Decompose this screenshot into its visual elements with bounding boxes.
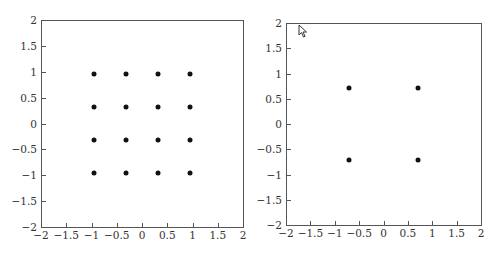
x-tick bbox=[243, 223, 244, 227]
x-tick bbox=[92, 223, 93, 227]
x-tick bbox=[193, 223, 194, 227]
y-tick-label: 1.5 bbox=[20, 40, 37, 51]
x-tick bbox=[66, 223, 67, 227]
y-tick bbox=[287, 175, 291, 176]
y-tick bbox=[42, 46, 46, 47]
y-tick-label: 0 bbox=[30, 118, 37, 129]
x-tick-label: −0.5 bbox=[346, 228, 372, 239]
y-tick bbox=[42, 124, 46, 125]
data-point bbox=[187, 104, 192, 109]
x-tick-label: 0 bbox=[380, 228, 387, 239]
plot-frame bbox=[286, 23, 482, 226]
data-point bbox=[346, 86, 351, 91]
y-tick bbox=[42, 20, 46, 21]
data-point bbox=[346, 157, 351, 162]
x-tick bbox=[384, 221, 385, 225]
y-tick bbox=[42, 227, 46, 228]
data-point bbox=[156, 138, 161, 143]
y-tick bbox=[287, 149, 291, 150]
y-tick-label: 0.5 bbox=[265, 93, 282, 104]
x-tick bbox=[457, 221, 458, 225]
y-tick bbox=[287, 74, 291, 75]
x-tick-label: 0 bbox=[139, 230, 146, 241]
data-point bbox=[416, 86, 421, 91]
y-tick-label: 2 bbox=[275, 18, 282, 29]
y-tick bbox=[42, 149, 46, 150]
data-point bbox=[187, 72, 192, 77]
y-tick-label: 1.5 bbox=[265, 43, 282, 54]
x-tick bbox=[310, 221, 311, 225]
y-tick bbox=[42, 201, 46, 202]
data-point bbox=[156, 104, 161, 109]
plot-frame bbox=[41, 20, 244, 228]
y-tick-label: −2 bbox=[267, 220, 282, 231]
x-tick-label: 1.5 bbox=[448, 228, 465, 239]
y-tick-label: 2 bbox=[30, 15, 37, 26]
x-tick-label: 2 bbox=[240, 230, 247, 241]
x-tick bbox=[218, 223, 219, 227]
y-tick-label: −1.5 bbox=[12, 196, 38, 207]
x-tick-label: 1.5 bbox=[209, 230, 226, 241]
x-tick-label: 1 bbox=[189, 230, 196, 241]
x-tick-label: −1.5 bbox=[54, 230, 80, 241]
x-tick bbox=[142, 223, 143, 227]
y-tick-label: 0 bbox=[275, 119, 282, 130]
y-tick bbox=[42, 98, 46, 99]
data-point bbox=[123, 138, 128, 143]
x-tick-label: −1 bbox=[84, 230, 99, 241]
y-tick bbox=[287, 124, 291, 125]
y-tick-label: −1 bbox=[22, 170, 37, 181]
x-tick-label: −1 bbox=[327, 228, 342, 239]
y-tick-label: 0.5 bbox=[20, 92, 37, 103]
y-tick-label: −2 bbox=[22, 222, 37, 233]
x-tick bbox=[359, 221, 360, 225]
data-point bbox=[416, 157, 421, 162]
y-tick-label: −1 bbox=[267, 169, 282, 180]
data-point bbox=[123, 72, 128, 77]
x-tick-label: −1.5 bbox=[298, 228, 324, 239]
x-tick-label: 0.5 bbox=[400, 228, 417, 239]
data-point bbox=[156, 170, 161, 175]
x-tick bbox=[167, 223, 168, 227]
x-tick bbox=[117, 223, 118, 227]
y-tick bbox=[287, 48, 291, 49]
data-point bbox=[92, 104, 97, 109]
data-point bbox=[123, 104, 128, 109]
y-tick-label: −1.5 bbox=[257, 194, 283, 205]
y-tick bbox=[287, 200, 291, 201]
y-tick bbox=[42, 175, 46, 176]
y-tick bbox=[287, 23, 291, 24]
data-point bbox=[156, 72, 161, 77]
data-point bbox=[92, 72, 97, 77]
y-tick bbox=[287, 99, 291, 100]
y-tick-label: 1 bbox=[30, 66, 37, 77]
y-tick bbox=[42, 72, 46, 73]
data-point bbox=[92, 170, 97, 175]
x-tick bbox=[432, 221, 433, 225]
mouse-cursor-icon bbox=[298, 24, 308, 38]
data-point bbox=[123, 170, 128, 175]
x-tick bbox=[481, 221, 482, 225]
x-tick bbox=[335, 221, 336, 225]
data-point bbox=[92, 138, 97, 143]
y-tick-label: −0.5 bbox=[12, 144, 38, 155]
data-point bbox=[187, 170, 192, 175]
x-tick-label: 1 bbox=[429, 228, 436, 239]
x-tick-label: 0.5 bbox=[159, 230, 176, 241]
x-tick-label: −0.5 bbox=[104, 230, 130, 241]
data-point bbox=[187, 138, 192, 143]
y-tick-label: 1 bbox=[275, 68, 282, 79]
y-tick-label: −0.5 bbox=[257, 144, 283, 155]
y-tick bbox=[287, 225, 291, 226]
x-tick-label: 2 bbox=[478, 228, 485, 239]
x-tick bbox=[408, 221, 409, 225]
